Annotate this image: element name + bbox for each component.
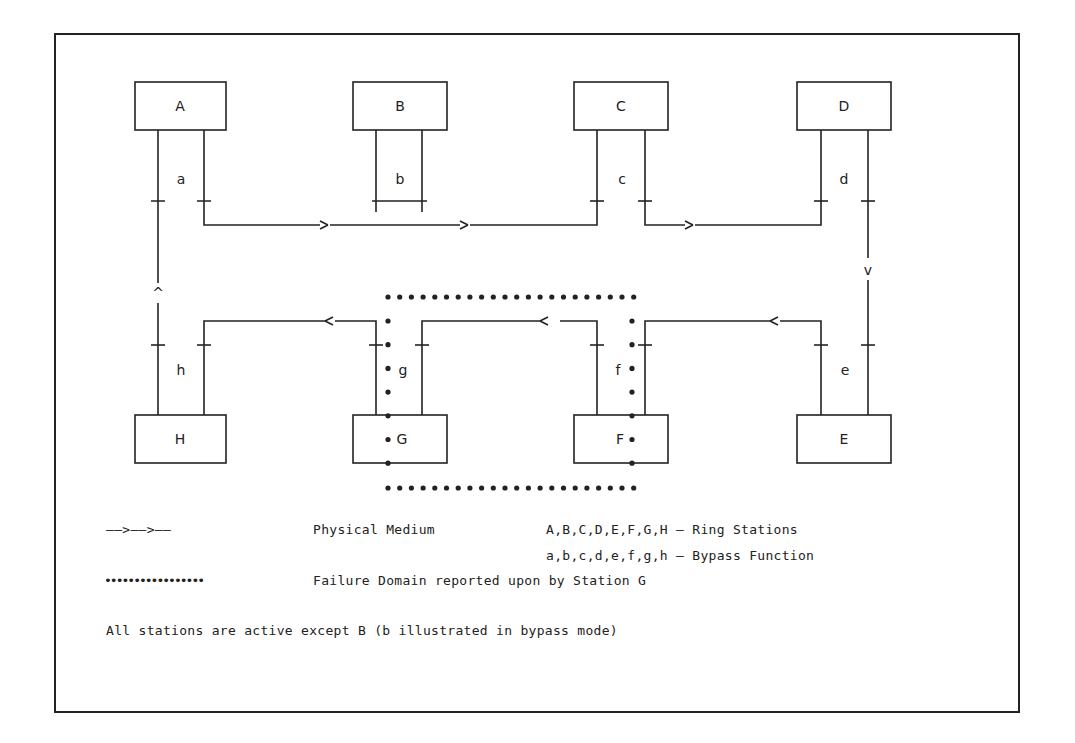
bypass-label-a: a xyxy=(177,171,186,187)
arrow-right-3 xyxy=(685,221,693,229)
arrow-left-3 xyxy=(325,317,333,325)
arrow-right-2 xyxy=(460,221,468,229)
failure-domain-dot xyxy=(549,485,554,490)
failure-domain-dot xyxy=(561,485,566,490)
failure-domain-dot xyxy=(629,390,634,395)
failure-domain-dot xyxy=(629,437,634,442)
failure-domain-dot xyxy=(502,294,507,299)
failure-domain-dot xyxy=(561,294,566,299)
failure-domain-dot xyxy=(409,485,414,490)
station-label-e: E xyxy=(840,431,849,447)
failure-domain-dot xyxy=(619,294,624,299)
failure-domain-dot xyxy=(631,294,636,299)
legend-bypass-function: a,b,c,d,e,f,g,h — Bypass Function xyxy=(546,548,814,563)
legend-failure-domain-label: Failure Domain reported upon by Station … xyxy=(313,573,646,588)
failure-domain-dot xyxy=(385,318,390,323)
arrow-left-2 xyxy=(540,317,548,325)
failure-domain-boundary xyxy=(385,294,636,490)
station-label-c: C xyxy=(616,98,626,114)
failure-domain-dot xyxy=(385,485,390,490)
failure-domain-dot xyxy=(479,485,484,490)
failure-domain-dot xyxy=(584,294,589,299)
failure-domain-dot xyxy=(432,294,437,299)
station-label-a: A xyxy=(175,98,185,114)
failure-domain-dot xyxy=(608,485,613,490)
bypass-label-h: h xyxy=(177,362,186,378)
station-label-b: B xyxy=(395,98,405,114)
failure-domain-dot xyxy=(467,485,472,490)
bypass-label-d: d xyxy=(840,171,849,187)
failure-domain-dot xyxy=(584,485,589,490)
failure-domain-dot xyxy=(397,485,402,490)
legend-note: All stations are active except B (b illu… xyxy=(106,623,618,638)
failure-domain-dot xyxy=(514,485,519,490)
legend-physical-medium-symbol: ——>——>—— xyxy=(106,522,171,537)
failure-domain-dot xyxy=(631,485,636,490)
failure-domain-dot xyxy=(397,294,402,299)
failure-domain-dot xyxy=(538,485,543,490)
lobe-a-out xyxy=(204,130,320,225)
legend-physical-medium-label: Physical Medium xyxy=(313,522,435,537)
bypass-label-f: f xyxy=(616,362,622,378)
failure-domain-dot xyxy=(385,294,390,299)
failure-domain-dot xyxy=(444,485,449,490)
station-label-h: H xyxy=(175,431,186,447)
arrow-up-icon: ^ xyxy=(152,285,164,301)
legend-failure-domain-symbol: ••••••••••••••••• xyxy=(104,573,203,588)
failure-domain-dot xyxy=(619,485,624,490)
failure-domain-dot xyxy=(596,294,601,299)
arrow-right-1 xyxy=(320,221,328,229)
failure-domain-dot xyxy=(514,294,519,299)
failure-domain-dot xyxy=(385,342,390,347)
failure-domain-dot xyxy=(538,294,543,299)
arrow-left-1 xyxy=(770,317,778,325)
failure-domain-dot xyxy=(491,294,496,299)
failure-domain-dot xyxy=(385,366,390,371)
failure-domain-dot xyxy=(421,485,426,490)
station-label-d: D xyxy=(839,98,850,114)
failure-domain-dot xyxy=(608,294,613,299)
failure-domain-dot xyxy=(629,366,634,371)
failure-domain-dot xyxy=(385,461,390,466)
failure-domain-dot xyxy=(385,390,390,395)
failure-domain-dot xyxy=(456,294,461,299)
bypass-label-c: c xyxy=(618,171,626,187)
failure-domain-dot xyxy=(549,294,554,299)
failure-domain-dot xyxy=(421,294,426,299)
legend-ring-stations: A,B,C,D,E,F,G,H — Ring Stations xyxy=(546,522,798,537)
bypass-label-b: b xyxy=(396,171,405,187)
failure-domain-dot xyxy=(409,294,414,299)
bypass-label-e: e xyxy=(841,362,850,378)
bypass-label-g: g xyxy=(399,362,408,378)
failure-domain-dot xyxy=(502,485,507,490)
failure-domain-dot xyxy=(479,294,484,299)
station-label-g: G xyxy=(397,431,408,447)
failure-domain-dot xyxy=(596,485,601,490)
failure-domain-dot xyxy=(629,318,634,323)
failure-domain-dot xyxy=(629,342,634,347)
failure-domain-dot xyxy=(526,294,531,299)
failure-domain-dot xyxy=(526,485,531,490)
failure-domain-dot xyxy=(385,413,390,418)
failure-domain-dot xyxy=(444,294,449,299)
arrow-down-icon: v xyxy=(864,262,872,278)
failure-domain-dot xyxy=(385,437,390,442)
failure-domain-dot xyxy=(456,485,461,490)
station-label-f: F xyxy=(616,431,624,447)
failure-domain-dot xyxy=(432,485,437,490)
figure-frame xyxy=(55,34,1019,712)
failure-domain-dot xyxy=(573,485,578,490)
failure-domain-dot xyxy=(573,294,578,299)
failure-domain-dot xyxy=(491,485,496,490)
failure-domain-dot xyxy=(629,413,634,418)
failure-domain-dot xyxy=(467,294,472,299)
failure-domain-dot xyxy=(629,461,634,466)
